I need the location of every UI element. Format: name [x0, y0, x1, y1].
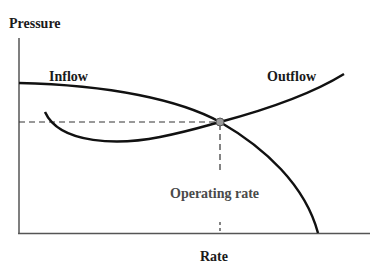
diagram-graphic — [0, 0, 382, 272]
inflow-label: Inflow — [49, 70, 88, 84]
operating-point-marker — [216, 118, 224, 126]
operating-rate-label: Operating rate — [170, 187, 259, 201]
y-axis-label: Pressure — [9, 17, 61, 31]
outflow-label: Outflow — [267, 70, 316, 84]
x-axis-label: Rate — [200, 250, 228, 264]
inflow-outflow-diagram: Pressure Inflow Outflow Operating rate R… — [0, 0, 382, 272]
outflow-curve — [45, 74, 344, 141]
